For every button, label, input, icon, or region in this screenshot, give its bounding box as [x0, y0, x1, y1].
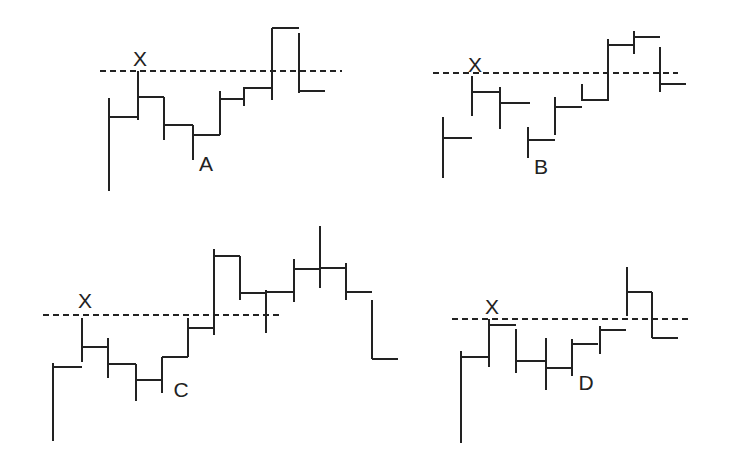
price-bar [109, 98, 137, 191]
price-bar [600, 326, 626, 354]
price-bar [634, 31, 660, 54]
point-x-label: X [133, 47, 147, 70]
price-bar [294, 259, 320, 302]
price-bar [443, 117, 472, 178]
price-bars [461, 267, 678, 443]
price-bar [528, 127, 555, 158]
marker-label-b: B [534, 155, 548, 178]
price-bar [652, 292, 678, 338]
price-bar [220, 91, 244, 135]
marker-label-c: C [173, 378, 188, 401]
figure-canvas: X A X B X C X D [0, 0, 729, 470]
price-bar [53, 363, 82, 441]
panel-b: X B [433, 31, 686, 178]
panel-a: X A [100, 28, 342, 191]
panel-d: X D [452, 267, 690, 443]
price-bar [472, 76, 500, 116]
price-bar [136, 364, 161, 401]
price-bar [164, 97, 193, 140]
price-bar [138, 71, 164, 120]
point-x-label: X [78, 289, 92, 312]
marker-label-d: D [578, 371, 593, 394]
price-bar [372, 300, 398, 359]
price-bar [244, 87, 271, 106]
price-bar [555, 97, 582, 135]
price-bar [272, 28, 299, 100]
price-bar [489, 319, 516, 367]
price-bar [500, 87, 530, 129]
price-bar [608, 39, 634, 101]
price-bar [582, 84, 608, 101]
marker-label-a: A [199, 152, 213, 175]
price-bar [461, 351, 488, 443]
point-x-label: X [485, 295, 499, 318]
price-bar [516, 329, 545, 373]
price-bar [188, 318, 214, 357]
point-x-label: X [468, 53, 482, 76]
price-bar [320, 226, 346, 288]
price-bar [266, 290, 294, 333]
price-bar [214, 249, 240, 335]
price-bar [546, 338, 571, 390]
price-bar [108, 338, 136, 378]
price-bar [299, 33, 325, 93]
price-bar [660, 47, 686, 92]
price-bar [82, 318, 108, 362]
price-bar [240, 256, 266, 300]
price-bar [627, 267, 652, 316]
price-bars [53, 226, 398, 441]
price-bar [346, 263, 372, 300]
panel-c: X C [43, 226, 398, 441]
